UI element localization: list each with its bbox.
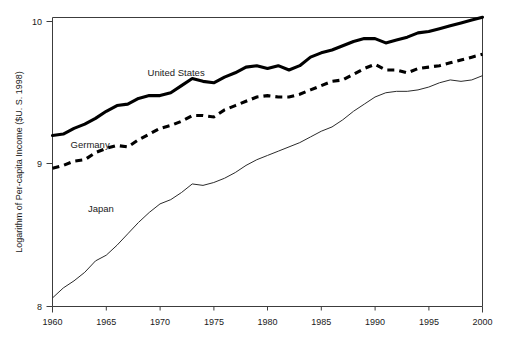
series-label-united-states: United States bbox=[148, 67, 205, 78]
x-tick-label-1990: 1990 bbox=[365, 317, 385, 327]
line-chart-svg: 10 9 8 1960 1965 1970 1975 1980 1985 199… bbox=[0, 0, 506, 343]
x-tick-label-1980: 1980 bbox=[257, 317, 277, 327]
data-series-group bbox=[53, 17, 483, 298]
x-tick-label-1995: 1995 bbox=[419, 317, 439, 327]
x-tick-label-1970: 1970 bbox=[150, 317, 170, 327]
x-axis-ticks: 1960 1965 1970 1975 1980 1985 1990 1995 … bbox=[42, 307, 492, 328]
y-tick-label-10: 10 bbox=[32, 17, 42, 27]
x-tick-label-1965: 1965 bbox=[96, 317, 116, 327]
series-line-germany bbox=[53, 54, 483, 168]
y-tick-label-8: 8 bbox=[37, 302, 42, 312]
x-tick-label-1975: 1975 bbox=[204, 317, 224, 327]
x-tick-label-1960: 1960 bbox=[42, 317, 62, 327]
x-tick-label-1985: 1985 bbox=[311, 317, 331, 327]
series-line-japan bbox=[53, 76, 483, 298]
series-label-germany: Germany bbox=[71, 139, 110, 150]
chart-figure: 10 9 8 1960 1965 1970 1975 1980 1985 199… bbox=[0, 0, 506, 343]
y-axis-title: Logarithm of Per-capita Income ($U. S. 1… bbox=[14, 71, 24, 253]
series-line-united-states bbox=[53, 17, 483, 135]
y-axis-ticks: 10 9 8 bbox=[32, 17, 53, 312]
y-tick-label-9: 9 bbox=[37, 159, 42, 169]
series-annotations: United States Germany Japan bbox=[71, 67, 205, 215]
x-tick-label-2000: 2000 bbox=[472, 317, 492, 327]
plot-frame bbox=[53, 18, 483, 307]
axis-left-top-right bbox=[53, 18, 483, 307]
series-label-japan: Japan bbox=[88, 203, 114, 214]
